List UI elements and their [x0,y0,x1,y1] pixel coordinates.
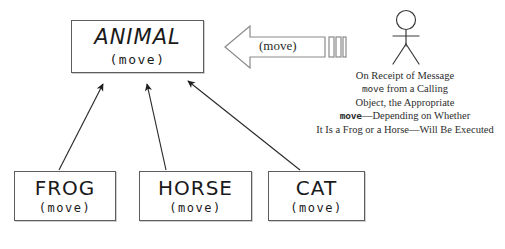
caption-line-2: move from a Calling [305,82,505,95]
class-name-frog: FROG [35,178,96,198]
actor-stick-figure-icon [393,11,419,65]
caption-line-4: move—Depending on Whether [305,109,505,122]
caption-line-3: Object, the Appropriate [305,96,505,109]
class-operation-horse: (move) [169,202,221,214]
caption-block: On Receipt of Message move from a Callin… [305,69,505,136]
generalization-horse-to-animal [147,84,166,170]
caption-line-5: It Is a Frog or a Horse—Will Be Executed [305,123,505,136]
caption-line-2-rest: from a Calling [384,83,448,94]
caption-line-4-keyword: move [340,110,362,121]
generalization-frog-to-animal [59,84,103,170]
caption-line-1: On Receipt of Message [305,69,505,82]
caption-line-2-keyword: move [362,83,384,94]
class-name-horse: HORSE [158,178,233,198]
class-name-animal: ANIMAL [94,27,180,48]
class-box-horse[interactable]: HORSE (move) [139,171,252,221]
class-box-cat[interactable]: CAT (move) [268,171,365,221]
class-operation-frog: (move) [39,202,91,214]
caption-line-4-rest: —Depending on Whether [362,110,470,121]
message-arrow-label: (move) [259,38,297,54]
class-name-cat: CAT [296,178,337,198]
class-box-frog[interactable]: FROG (move) [14,171,116,221]
class-box-animal[interactable]: ANIMAL (move) [71,20,204,73]
class-operation-cat: (move) [290,202,342,214]
generalization-cat-to-animal [188,81,300,170]
class-operation-animal: (move) [110,53,166,66]
diagram-canvas: ANIMAL (move) FROG (move) HORSE (move) C… [0,0,505,249]
